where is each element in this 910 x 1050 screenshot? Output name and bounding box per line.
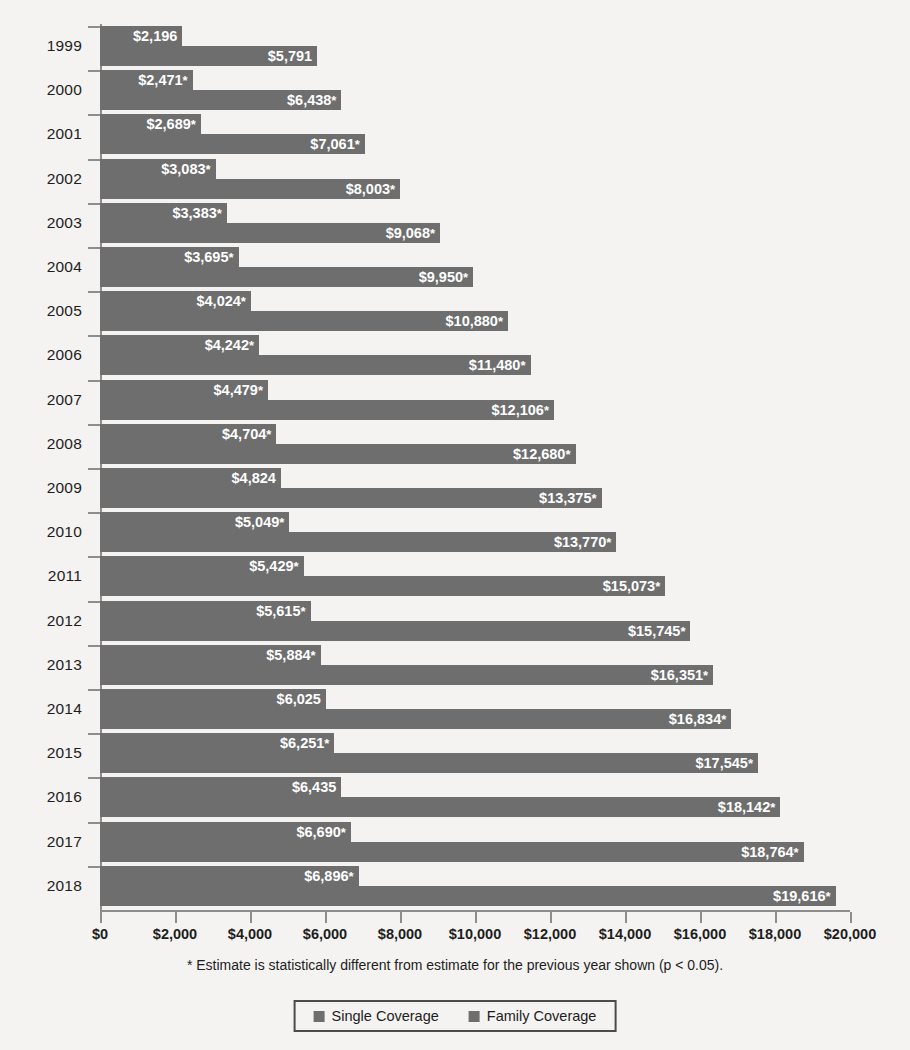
x-axis-tick	[700, 912, 702, 923]
bar-row: 2017$6,690*$18,764*	[0, 822, 910, 862]
bar-value-label: $6,690*	[100, 822, 351, 842]
x-axis-tick-label: $20,000	[824, 926, 876, 942]
legend-swatch-icon	[469, 1011, 480, 1022]
bar-row: 2003$3,383*$9,068*	[0, 203, 910, 243]
x-axis-tick	[325, 912, 327, 923]
x-axis-tick-label: $8,000	[378, 926, 422, 942]
year-axis-label: 2012	[0, 612, 82, 630]
bar-row: 2000$2,471*$6,438*	[0, 70, 910, 110]
bar-value-label: $12,106*	[100, 400, 554, 420]
bar-value-label: $15,073*	[100, 576, 665, 596]
bar-value-label: $5,884*	[100, 645, 321, 665]
bar-value-label: $6,438*	[100, 90, 341, 110]
bar-value-label: $16,351*	[100, 665, 713, 685]
footnote: * Estimate is statistically different fr…	[0, 957, 910, 973]
bar-value-label: $9,068*	[100, 223, 440, 243]
legend-label: Single Coverage	[332, 1008, 439, 1024]
bar-row: 2002$3,083*$8,003*	[0, 159, 910, 199]
bar-value-label: $3,383*	[100, 203, 227, 223]
x-axis-tick-label: $4,000	[228, 926, 272, 942]
year-axis-label: 2002	[0, 170, 82, 188]
bar-value-label: $19,616*	[100, 886, 836, 906]
bar-value-label: $8,003*	[100, 179, 400, 199]
bar-value-label: $16,834*	[100, 709, 731, 729]
bar-value-label: $4,704*	[100, 424, 276, 444]
bar-row: 2008$4,704*$12,680*	[0, 424, 910, 464]
legend-item-family-coverage: Family Coverage	[469, 1008, 597, 1024]
x-axis-tick-label: $2,000	[153, 926, 197, 942]
bar-value-label: $5,429*	[100, 556, 304, 576]
bar-row: 2006$4,242*$11,480*	[0, 335, 910, 375]
year-axis-label: 2011	[0, 567, 82, 585]
year-axis-label: 2013	[0, 656, 82, 674]
x-axis-tick	[100, 912, 102, 923]
bar-value-label: $12,680*	[100, 444, 576, 464]
year-axis-label: 2016	[0, 788, 82, 806]
bar-row: 2010$5,049*$13,770*	[0, 512, 910, 552]
bar-value-label: $3,695*	[100, 247, 239, 267]
x-axis-tick	[400, 912, 402, 923]
legend-label: Family Coverage	[487, 1008, 597, 1024]
bar-value-label: $9,950*	[100, 267, 473, 287]
bar-value-label: $2,471*	[100, 70, 193, 90]
bar-row: 2015$6,251*$17,545*	[0, 733, 910, 773]
bar-value-label: $3,083*	[100, 159, 216, 179]
bar-value-label: $6,435	[100, 777, 341, 797]
bar-row: 2014$6,025$16,834*	[0, 689, 910, 729]
bar-value-label: $11,480*	[100, 355, 531, 375]
x-axis-tick	[775, 912, 777, 923]
year-axis-label: 2014	[0, 700, 82, 718]
bar-value-label: $6,025	[100, 689, 326, 709]
chart-legend: Single Coverage Family Coverage	[294, 1000, 617, 1032]
bar-value-label: $2,689*	[100, 114, 201, 134]
bar-value-label: $5,791	[100, 46, 317, 66]
bar-value-label: $6,896*	[100, 866, 359, 886]
bar-row: 2005$4,024*$10,880*	[0, 291, 910, 331]
x-axis-tick	[850, 912, 852, 923]
bar-row: 2001$2,689*$7,061*	[0, 114, 910, 154]
x-axis-tick-label: $16,000	[674, 926, 726, 942]
bar-value-label: $18,764*	[100, 842, 804, 862]
bar-value-label: $18,142*	[100, 797, 780, 817]
bar-row: 2016$6,435$18,142*	[0, 777, 910, 817]
bar-value-label: $4,024*	[100, 291, 251, 311]
bar-row: 2004$3,695*$9,950*	[0, 247, 910, 287]
year-axis-label: 2006	[0, 346, 82, 364]
year-axis-label: 2004	[0, 258, 82, 276]
year-axis-label: 2005	[0, 302, 82, 320]
horizontal-bar-chart: 1999$2,196$5,7912000$2,471*$6,438*2001$2…	[0, 0, 910, 1050]
legend-swatch-icon	[314, 1011, 325, 1022]
bar-row: 2009$4,824$13,375*	[0, 468, 910, 508]
year-axis-label: 2015	[0, 744, 82, 762]
year-axis-label: 2010	[0, 523, 82, 541]
bar-value-label: $17,545*	[100, 753, 758, 773]
x-axis-tick	[625, 912, 627, 923]
legend-item-single-coverage: Single Coverage	[314, 1008, 439, 1024]
bar-value-label: $13,375*	[100, 488, 602, 508]
x-axis-tick-label: $0	[92, 926, 108, 942]
bar-value-label: $7,061*	[100, 134, 365, 154]
x-axis-tick-label: $18,000	[749, 926, 801, 942]
bar-row: 2013$5,884*$16,351*	[0, 645, 910, 685]
x-axis-tick	[175, 912, 177, 923]
year-axis-label: 2003	[0, 214, 82, 232]
x-axis-tick	[250, 912, 252, 923]
x-axis-tick-label: $14,000	[599, 926, 651, 942]
bar-value-label: $5,049*	[100, 512, 289, 532]
bar-row: 2011$5,429*$15,073*	[0, 556, 910, 596]
bar-row: 2018$6,896*$19,616*	[0, 866, 910, 906]
bar-value-label: $15,745*	[100, 621, 690, 641]
x-axis-tick-label: $6,000	[303, 926, 347, 942]
bar-value-label: $4,824	[100, 468, 281, 488]
bar-value-label: $6,251*	[100, 733, 334, 753]
year-axis-label: 2007	[0, 391, 82, 409]
year-axis-label: 1999	[0, 37, 82, 55]
x-axis-tick	[475, 912, 477, 923]
year-axis-label: 2001	[0, 125, 82, 143]
year-axis-label: 2008	[0, 435, 82, 453]
bar-row: 1999$2,196$5,791	[0, 26, 910, 66]
bar-value-label: $4,242*	[100, 335, 259, 355]
x-axis-tick-label: $12,000	[524, 926, 576, 942]
year-axis-label: 2009	[0, 479, 82, 497]
year-axis-label: 2017	[0, 833, 82, 851]
